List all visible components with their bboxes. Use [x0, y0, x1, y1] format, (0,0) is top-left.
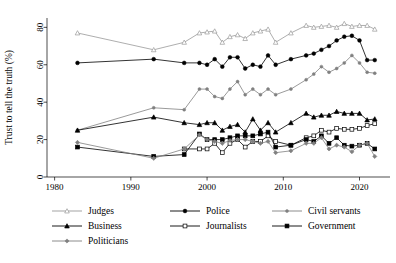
data-point-marker	[350, 54, 353, 57]
y-tick-label: 0	[35, 174, 45, 179]
data-point-marker	[152, 57, 156, 61]
data-point-marker	[350, 127, 354, 131]
data-point-marker	[251, 63, 255, 67]
data-point-marker	[320, 48, 324, 52]
data-point-marker	[335, 67, 338, 70]
legend-label: Government	[308, 221, 356, 231]
data-point-marker	[228, 88, 231, 91]
data-point-marker	[358, 126, 362, 130]
data-point-marker	[373, 72, 376, 75]
data-point-marker	[358, 39, 362, 43]
data-point-marker	[206, 88, 209, 91]
data-point-marker	[251, 134, 255, 138]
trust-line-chart: Trust to tell the truth (%) 020406080 19…	[0, 0, 396, 263]
data-point-marker	[312, 52, 316, 56]
y-tick-label: 80	[35, 22, 45, 32]
x-tick-label: 2020	[351, 182, 370, 192]
data-point-marker	[305, 78, 308, 81]
data-point-marker	[266, 54, 270, 58]
legend-label: Civil servants	[308, 206, 361, 216]
data-point-marker	[350, 34, 354, 38]
data-point-marker	[213, 57, 217, 61]
data-point-marker	[373, 58, 377, 62]
data-point-marker	[289, 143, 293, 147]
data-point-marker	[220, 151, 224, 155]
data-point-marker	[286, 210, 289, 213]
data-point-marker	[205, 147, 209, 151]
data-point-marker	[274, 140, 278, 144]
data-point-marker	[335, 136, 339, 140]
y-axis-title-text: Trust to tell the truth (%)	[4, 50, 15, 145]
data-point-marker	[76, 61, 80, 65]
data-point-marker	[312, 73, 315, 76]
data-point-marker	[183, 209, 187, 213]
data-point-marker	[320, 128, 324, 132]
data-point-marker	[274, 93, 277, 96]
legend-label: Police	[206, 206, 230, 216]
data-point-marker	[198, 61, 202, 65]
data-point-marker	[220, 65, 224, 69]
data-point-marker	[198, 147, 202, 151]
data-point-marker	[182, 61, 186, 65]
data-point-marker	[76, 145, 80, 149]
data-point-marker	[152, 106, 155, 109]
data-point-marker	[320, 65, 323, 68]
chart-figure: Trust to tell the truth (%) 020406080 19…	[0, 0, 396, 263]
data-point-marker	[183, 108, 186, 111]
data-point-marker	[365, 58, 369, 62]
data-point-marker	[205, 63, 209, 67]
data-point-marker	[228, 55, 232, 59]
data-point-marker	[213, 95, 216, 98]
data-point-marker	[358, 61, 361, 64]
data-point-marker	[236, 55, 240, 59]
data-point-marker	[343, 61, 346, 64]
data-point-marker	[198, 88, 201, 91]
data-point-marker	[243, 145, 247, 149]
data-point-marker	[328, 71, 331, 74]
data-point-marker	[274, 145, 278, 149]
x-tick-label: 2000	[198, 182, 217, 192]
legend-label: Business	[88, 221, 122, 231]
x-tick-label: 2010	[274, 182, 293, 192]
data-point-marker	[373, 147, 377, 151]
data-point-marker	[267, 88, 270, 91]
legend-label: Politicians	[88, 236, 128, 246]
data-point-marker	[243, 67, 247, 71]
data-point-marker	[266, 130, 270, 134]
y-tick-label: 20	[35, 135, 45, 145]
data-point-marker	[183, 224, 187, 228]
data-point-marker	[312, 134, 316, 138]
data-point-marker	[350, 144, 354, 148]
data-point-marker	[289, 57, 293, 61]
data-point-marker	[221, 97, 224, 100]
data-point-marker	[342, 127, 346, 131]
data-point-marker	[251, 88, 254, 91]
data-point-marker	[259, 93, 262, 96]
data-point-marker	[335, 126, 339, 130]
data-point-marker	[285, 224, 289, 228]
y-axis-title: Trust to tell the truth (%)	[4, 50, 15, 145]
data-point-marker	[327, 44, 331, 48]
data-point-marker	[373, 122, 377, 126]
data-point-marker	[327, 141, 331, 145]
data-point-marker	[289, 88, 292, 91]
legend-label: Judges	[88, 206, 114, 216]
y-tick-label: 60	[35, 60, 45, 70]
data-point-marker	[335, 39, 339, 43]
x-tick-label: 1980	[46, 182, 65, 192]
data-point-marker	[304, 54, 308, 58]
x-tick-label: 1990	[122, 182, 141, 192]
data-point-marker	[259, 65, 263, 69]
data-point-marker	[259, 132, 263, 136]
y-tick-label: 40	[35, 97, 45, 107]
data-point-marker	[365, 124, 369, 128]
data-point-marker	[244, 93, 247, 96]
data-point-marker	[342, 35, 346, 39]
data-point-marker	[182, 153, 186, 157]
legend-label: Journalists	[206, 221, 247, 231]
data-point-marker	[327, 130, 331, 134]
data-point-marker	[274, 63, 278, 67]
data-point-marker	[236, 80, 239, 83]
data-point-marker	[366, 71, 369, 74]
